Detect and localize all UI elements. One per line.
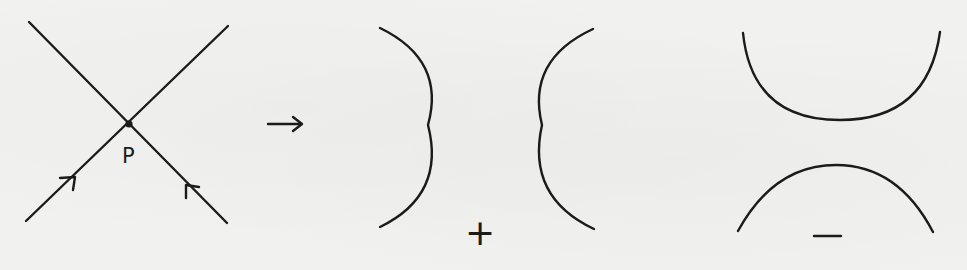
flow-arrow-icon [60, 177, 75, 190]
left-bulging-arc [539, 29, 594, 229]
sign-label-plus: + [465, 212, 495, 253]
diagram-svg: P + − [0, 0, 967, 270]
sign-label-minus-text: − [828, 239, 829, 240]
upper-cup-arc [743, 32, 940, 120]
right-bulging-arc [380, 28, 432, 227]
crossing-group: P [26, 22, 228, 223]
lower-cap-arc [738, 165, 933, 232]
negative-smoothing: − [738, 32, 940, 240]
saddle-point-dot [125, 120, 132, 127]
diagram-canvas: P + − [0, 0, 967, 270]
positive-smoothing: + [380, 28, 594, 253]
point-label-p: P [122, 144, 135, 168]
transition-arrow-icon [268, 117, 302, 131]
